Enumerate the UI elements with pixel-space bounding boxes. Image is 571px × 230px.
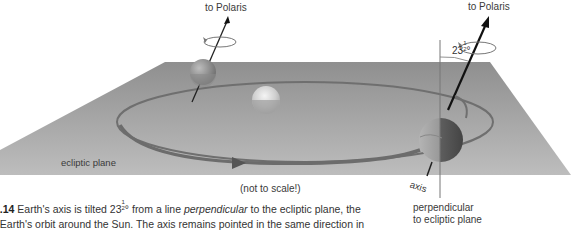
to-polaris-label-right: to Polaris <box>468 1 510 12</box>
ecliptic-plane-label: ecliptic plane <box>61 157 116 168</box>
caption-line-1: 1.14 Earth's axis is tilted 2312° from a… <box>0 199 394 217</box>
tilt-angle-label: 2312° <box>452 40 470 56</box>
caption-line-2: f Earth's orbit around the Sun. The axis… <box>0 217 394 230</box>
figure-caption: 1.14 Earth's axis is tilted 2312° from a… <box>0 199 394 230</box>
angle-whole: 23 <box>452 45 463 56</box>
sun <box>252 86 280 114</box>
ecliptic-diagram <box>0 0 571 230</box>
perpendicular-label: perpendicular to ecliptic plane <box>413 202 482 226</box>
figure-number: 1.14 <box>0 203 14 215</box>
not-to-scale-label: (not to scale!) <box>240 183 301 194</box>
to-polaris-label-left: to Polaris <box>205 2 247 13</box>
angle-unit: ° <box>466 45 470 56</box>
